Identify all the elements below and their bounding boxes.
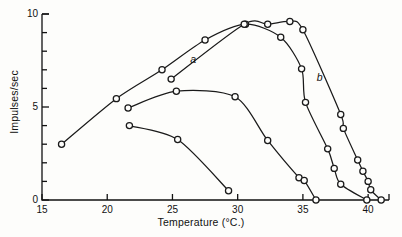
y-tick-label: 10 [20,8,38,19]
data-point-marker [168,76,174,82]
data-point-marker [338,111,344,117]
data-point-marker [225,188,231,194]
y-tick-label: 5 [20,101,38,112]
data-point-marker [355,157,361,163]
data-point-marker [300,27,306,33]
y-tick-label: 0 [20,194,38,205]
data-point-marker [159,67,165,73]
y-axis-label: Impulses/sec [8,57,20,147]
data-point-marker [125,105,131,111]
data-point-marker [299,66,305,72]
data-point-marker [340,125,346,131]
data-point-marker [175,136,181,142]
data-point-marker [360,168,366,174]
data-markers [58,18,384,203]
data-point-marker [265,137,271,143]
data-point-marker [173,88,179,94]
data-point-marker [58,141,64,147]
data-point-marker [301,177,307,183]
data-point-marker [302,99,308,105]
curve-line [129,126,228,191]
data-point-marker [378,197,384,203]
data-point-marker [365,178,371,184]
data-point-marker [113,96,119,102]
curve-line [62,24,367,200]
x-tick-label: 40 [356,204,380,215]
data-point-marker [338,181,344,187]
figure: 1520253035400510 Temperature (°C.) Impul… [0,0,402,237]
x-tick-label: 15 [30,204,54,215]
curve-label-b: b [317,71,323,83]
axes [42,14,389,200]
x-tick-label: 30 [226,204,250,215]
data-point-marker [265,21,271,27]
x-tick-label: 20 [95,204,119,215]
data-point-marker [232,94,238,100]
data-point-marker [325,146,331,152]
data-point-marker [331,165,337,171]
data-point-marker [313,197,319,203]
x-tick-label: 35 [291,204,315,215]
data-point-marker [241,21,247,27]
x-tick-label: 25 [160,204,184,215]
data-point-marker [364,197,370,203]
data-point-marker [278,34,284,40]
data-point-marker [287,18,293,24]
data-curves [62,21,382,200]
data-point-marker [368,187,374,193]
x-axis-label: Temperature (°C.) [0,216,402,228]
curve-label-a: a [190,53,196,65]
chart-canvas [0,0,402,237]
data-point-marker [126,123,132,129]
data-point-marker [202,37,208,43]
curve-line [171,21,381,200]
